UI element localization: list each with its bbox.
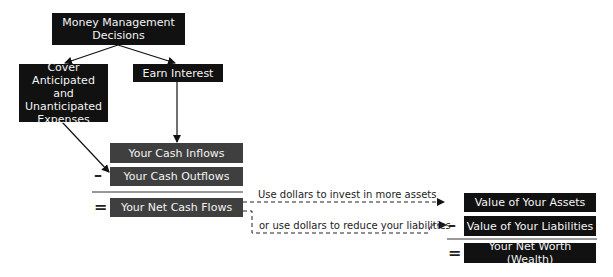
cash-outflows-label: Your Cash Outflows: [124, 170, 230, 183]
liabilities-box: Value of Your Liabilities: [464, 216, 596, 236]
assets-box: Value of Your Assets: [464, 193, 596, 212]
assets-label: Value of Your Assets: [475, 196, 586, 209]
minus-sign: –: [448, 217, 456, 233]
liabilities-label: Value of Your Liabilities: [467, 220, 594, 233]
earn-interest-label: Earn Interest: [143, 67, 214, 80]
cash-inflows-label: Your Cash Inflows: [128, 147, 224, 160]
cash-outflows-box: Your Cash Outflows: [110, 167, 243, 186]
minus-sign: –: [94, 167, 102, 183]
net-cash-flows-label: Your Net Cash Flows: [121, 201, 232, 214]
money-management-decisions-box: Money Management Decisions: [52, 13, 185, 45]
invest-path-label: Use dollars to invest in more assets: [258, 189, 436, 201]
reduce-path-label: or use dollars to reduce your liabilitie…: [259, 220, 451, 232]
cover-expenses-label: Cover Anticipated and Unanticipated Expe…: [22, 61, 105, 126]
net-worth-box: Your Net Worth (Wealth): [464, 243, 596, 263]
net-cash-flows-box: Your Net Cash Flows: [110, 198, 243, 217]
cover-expenses-box: Cover Anticipated and Unanticipated Expe…: [19, 64, 108, 122]
equals-sign: =: [94, 199, 107, 215]
earn-interest-box: Earn Interest: [133, 64, 223, 82]
equals-sign: =: [448, 245, 461, 261]
net-worth-label: Your Net Worth (Wealth): [464, 240, 596, 266]
cash-inflows-box: Your Cash Inflows: [110, 143, 243, 163]
money-management-label: Money Management Decisions: [52, 16, 185, 42]
